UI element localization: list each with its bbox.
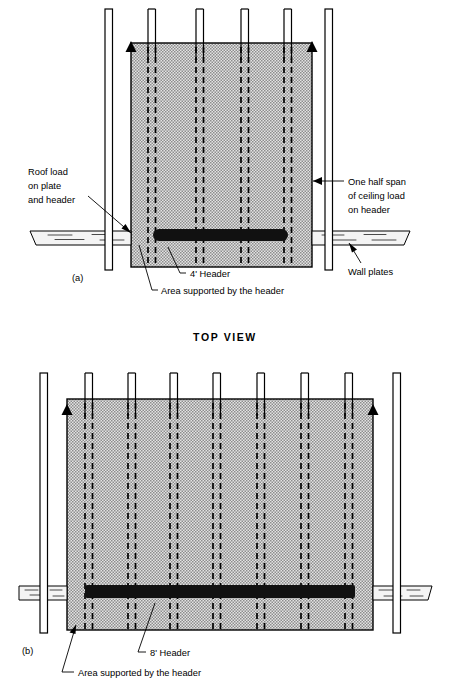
wall-plate-left-a <box>30 231 131 245</box>
panel-label-b: (b) <box>22 646 33 656</box>
stud-outer-left-b <box>40 373 48 633</box>
roof-load-label-line3: and header <box>28 195 75 205</box>
area-supported-label-a: Area supported by the header <box>161 286 284 296</box>
stud-outer-left-a <box>105 9 113 270</box>
top-view-header-load-diagram: (a) Roof load on plate and header One ha… <box>0 0 450 693</box>
area-supported-label-b: Area supported by the header <box>78 668 201 678</box>
header-label-b: 8' Header <box>150 648 190 658</box>
ceiling-load-label-line2: of ceiling load <box>348 191 405 201</box>
ceiling-load-label-line3: on header <box>348 205 390 215</box>
roof-load-label-line1: Roof load <box>28 167 68 177</box>
section-title: TOP VIEW <box>193 331 257 343</box>
ceiling-load-label-line1: One half span <box>348 177 406 187</box>
wall-plates-label: Wall plates <box>348 267 393 277</box>
header-beam-a <box>153 229 288 241</box>
stud-outer-right-b <box>393 373 401 633</box>
header-label-a: 4' Header <box>190 269 230 279</box>
figure-root: (a) Roof load on plate and header One ha… <box>0 0 450 693</box>
panel-label-a: (a) <box>72 273 83 283</box>
stud-outer-right-a <box>325 9 333 270</box>
header-beam-b <box>85 585 355 598</box>
roof-load-label-line2: on plate <box>28 181 61 191</box>
wall-plate-right-b <box>373 586 432 600</box>
